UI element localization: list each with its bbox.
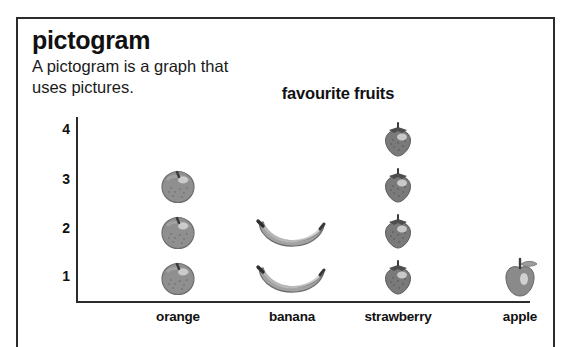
x-axis-line bbox=[76, 301, 530, 303]
x-tick-apple: apple bbox=[465, 309, 575, 324]
page-title: pictogram bbox=[32, 26, 272, 54]
orange-icon-3 bbox=[155, 163, 201, 209]
y-tick-3: 3 bbox=[44, 171, 70, 187]
y-tick-4: 4 bbox=[44, 121, 70, 137]
page-description: A pictogram is a graph that uses picture… bbox=[32, 56, 247, 98]
column-apple bbox=[475, 115, 565, 301]
y-tick-1: 1 bbox=[44, 268, 70, 284]
x-tick-orange: orange bbox=[123, 309, 233, 324]
banana-icon-2 bbox=[254, 209, 328, 255]
x-tick-strawberry: strawberry bbox=[343, 309, 453, 324]
orange-icon-2 bbox=[155, 209, 201, 255]
plot-area bbox=[78, 115, 530, 301]
strawberry-icon-1 bbox=[375, 255, 421, 301]
column-orange bbox=[133, 115, 223, 301]
header-block: pictogram A pictogram is a graph that us… bbox=[32, 26, 272, 98]
strawberry-icon-4 bbox=[375, 117, 421, 163]
orange-icon-1 bbox=[155, 255, 201, 301]
icon-stack-orange bbox=[133, 163, 223, 301]
icon-stack-apple bbox=[475, 255, 565, 301]
icon-stack-banana bbox=[246, 209, 336, 301]
chart-title: favourite fruits bbox=[238, 84, 438, 103]
y-axis-ticks: 4 3 2 1 bbox=[40, 115, 70, 303]
strawberry-icon-2 bbox=[375, 209, 421, 255]
strawberry-icon-3 bbox=[375, 163, 421, 209]
x-axis-labels: orange banana strawberry apple bbox=[78, 305, 530, 331]
column-banana bbox=[246, 115, 336, 301]
x-tick-banana: banana bbox=[237, 309, 347, 324]
y-tick-2: 2 bbox=[44, 220, 70, 236]
icon-stack-strawberry bbox=[353, 117, 443, 301]
column-strawberry bbox=[353, 115, 443, 301]
apple-icon-1 bbox=[497, 255, 543, 301]
pictogram-chart: 4 3 2 1 bbox=[40, 115, 540, 335]
banana-icon-1 bbox=[254, 255, 328, 301]
